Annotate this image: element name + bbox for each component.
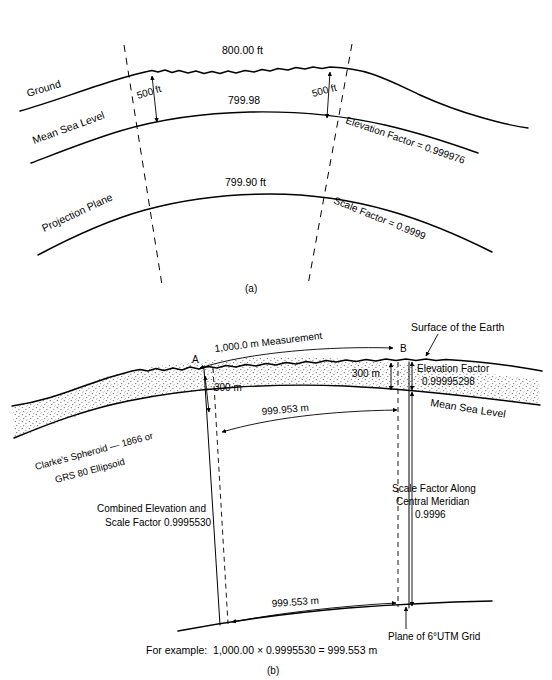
ground-label-a: Ground [25, 77, 62, 99]
grid-distance-label-b: 999.553 m [271, 595, 319, 609]
point-b-label: B [400, 343, 407, 354]
surface-of-earth-leader [426, 334, 438, 356]
ground-distance-label-a: 800.00 ft [222, 44, 263, 56]
panel-b-caption: (b) [267, 665, 279, 676]
scale-meridian-line3: 0.9996 [415, 509, 446, 520]
projection-plane-label-a: Projection Plane [40, 191, 115, 234]
panel-a-caption: (a) [245, 283, 257, 294]
projection-distance-label-a: 799.90 ft [225, 176, 266, 188]
diagram-canvas: 800.00 ft 799.98 799.90 ft Ground Mean S… [0, 0, 552, 680]
sea-level-dimension-b [222, 410, 397, 432]
worked-example-label: For example: 1,000.00 × 0.9995530 = 999.… [146, 644, 377, 656]
height-dimension-left-a [152, 76, 157, 122]
utm-plane-label: Plane of 6°UTM Grid [388, 631, 480, 642]
height-label-right-b: 300 m [352, 368, 380, 379]
point-a-label: A [192, 354, 199, 365]
crust-stipple-fill [0, 340, 552, 460]
scale-meridian-line2: Central Meridian [396, 496, 469, 507]
figure-root: 800.00 ft 799.98 799.90 ft Ground Mean S… [0, 0, 552, 680]
panel-a: 800.00 ft 799.98 799.90 ft Ground Mean S… [20, 44, 528, 294]
combined-factor-line1: Combined Elevation and [97, 503, 206, 514]
surface-of-earth-label: Surface of the Earth [411, 321, 505, 333]
sea-level-distance-label-a: 799.98 [228, 94, 260, 106]
utm-grid-plane-curve [178, 601, 492, 631]
elevation-factor-value-b: 0.99995298 [422, 376, 475, 387]
projection-line-left-solid[interactable] [204, 369, 220, 625]
scale-meridian-line1: Scale Factor Along [392, 483, 476, 494]
elevation-factor-label-b: Elevation Factor [417, 363, 490, 374]
radial-dashed-line-left-a[interactable] [124, 45, 162, 285]
radial-dashed-line-right-a[interactable] [308, 44, 352, 285]
height-label-right-a: 500 ft [311, 82, 338, 99]
elevation-factor-label-a: Elevation Factor = 0.999976 [344, 114, 467, 165]
panel-b: A B 1,000.0 m Measurement Surface of the… [0, 321, 552, 676]
height-label-left-b: 300 m [214, 382, 242, 393]
height-label-left-a: 500 ft [135, 83, 162, 101]
mean-sea-level-label-a: Mean Sea Level [31, 109, 106, 146]
combined-factor-line2: Scale Factor 0.9995530 [105, 517, 212, 528]
sea-level-distance-label-b: 999.953 m [261, 402, 309, 417]
projection-line-left-dashed[interactable] [213, 368, 228, 624]
